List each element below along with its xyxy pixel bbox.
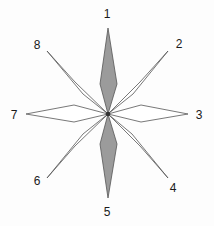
point-label-3: 3 bbox=[196, 109, 203, 121]
star-diagram-figure: 12345678 bbox=[0, 0, 214, 226]
star-ray-7 bbox=[26, 105, 108, 122]
star-ray-1 bbox=[100, 28, 117, 114]
point-label-7: 7 bbox=[11, 109, 18, 121]
point-label-8: 8 bbox=[34, 39, 41, 51]
point-label-5: 5 bbox=[104, 206, 111, 218]
center-point bbox=[106, 112, 110, 116]
star-ray-5 bbox=[100, 114, 117, 198]
point-label-6: 6 bbox=[34, 175, 41, 187]
star-ray-6 bbox=[47, 114, 108, 178]
star-svg-canvas bbox=[0, 0, 214, 226]
star-ray-8 bbox=[47, 51, 108, 114]
star-ray-3 bbox=[108, 105, 188, 122]
point-label-2: 2 bbox=[176, 38, 183, 50]
point-label-4: 4 bbox=[170, 182, 177, 194]
point-label-1: 1 bbox=[104, 8, 111, 20]
